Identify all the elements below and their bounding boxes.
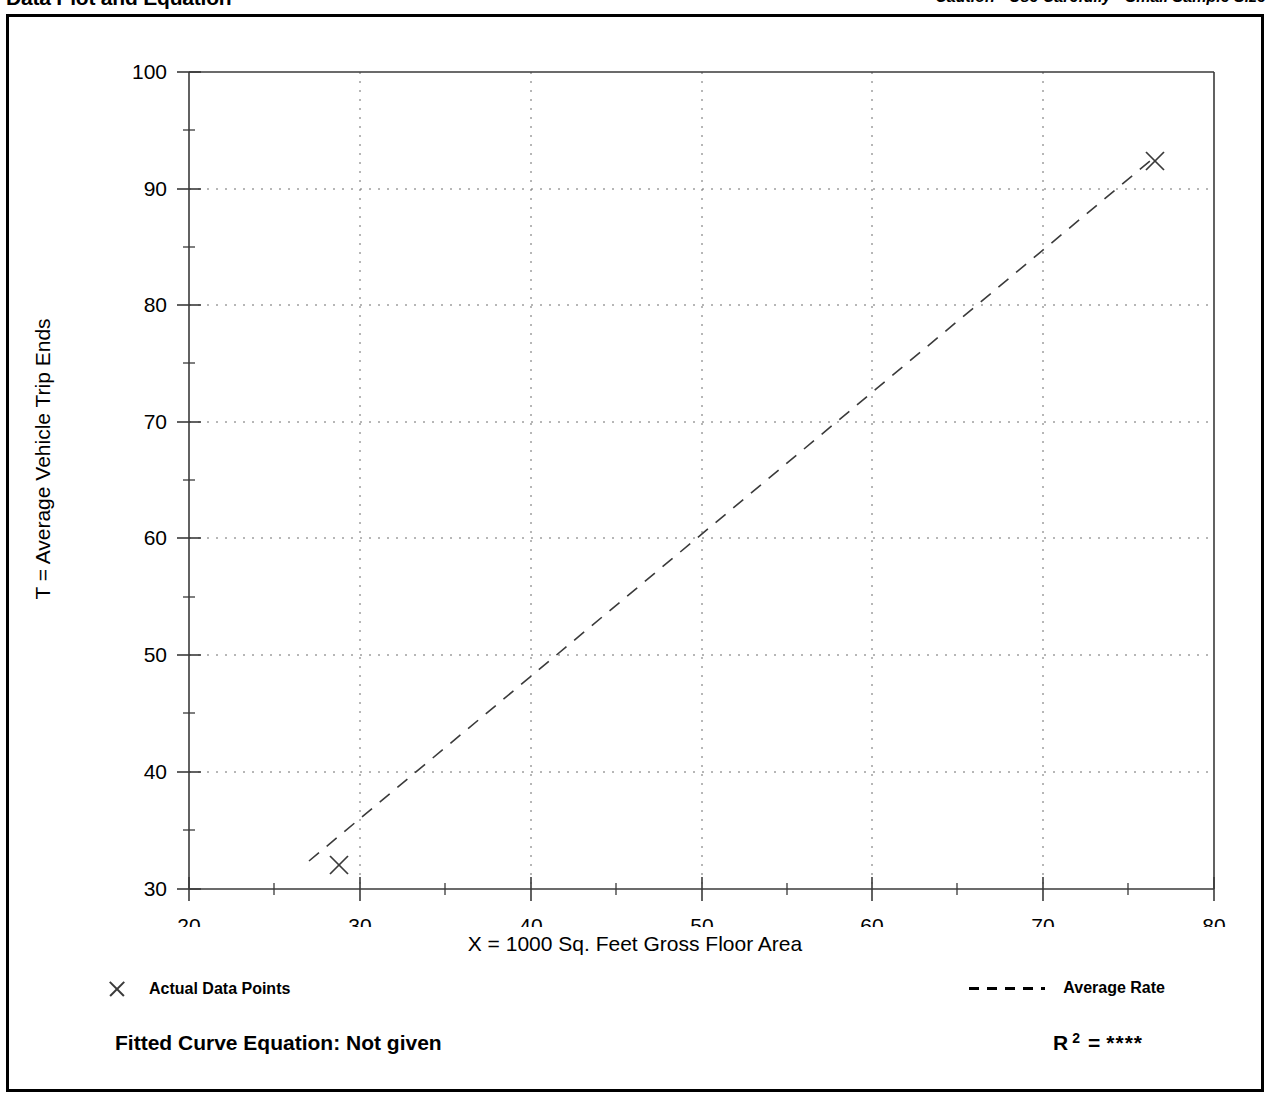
legend-item-data-points: Actual Data Points (107, 979, 290, 999)
y-axis-title: T = Average Vehicle Trip Ends (31, 229, 55, 689)
chart-legend: Actual Data Points Average Rate (9, 979, 1261, 1015)
x-tick-label: 80 (1202, 914, 1225, 927)
x-axis-title: X = 1000 Sq. Feet Gross Floor Area (9, 932, 1261, 956)
y-tick-label: 60 (144, 526, 167, 549)
data-point-marker (330, 856, 348, 874)
y-tick-label: 90 (144, 177, 167, 200)
y-tick-label: 40 (144, 760, 167, 783)
x-tick-label: 50 (690, 914, 713, 927)
fitted-curve-equation: Fitted Curve Equation: Not given (115, 1031, 442, 1055)
x-tick-label: 70 (1031, 914, 1054, 927)
legend-label-data-points: Actual Data Points (149, 980, 290, 998)
x-tick-label: 60 (860, 914, 883, 927)
y-tick-label: 70 (144, 410, 167, 433)
y-tick-label: 80 (144, 293, 167, 316)
r-squared-symbol: R (1053, 1031, 1068, 1055)
plot-grid (189, 72, 1214, 889)
r-squared-block: R2 = **** (1053, 1031, 1143, 1055)
y-tick-labels: 100 90 80 70 60 50 40 30 (132, 60, 167, 900)
legend-label-average-rate: Average Rate (1063, 979, 1165, 997)
x-marker-icon (107, 979, 127, 999)
y-tick-label: 50 (144, 643, 167, 666)
caution-note: Caution - Use Carefully - Small Sample S… (935, 0, 1266, 6)
chart-stage: 100 90 80 70 60 50 40 30 20 30 40 50 60 … (9, 17, 1261, 1089)
r-squared-exponent: 2 (1072, 1030, 1080, 1046)
dashed-line-icon (969, 987, 1045, 990)
data-point-marker (1146, 152, 1164, 170)
r-squared-value: **** (1106, 1031, 1143, 1055)
scatter-plot: 100 90 80 70 60 50 40 30 20 30 40 50 60 … (9, 17, 1261, 927)
x-tick-label: 40 (519, 914, 542, 927)
r-squared-equals: = (1088, 1031, 1100, 1055)
y-tick-label: 30 (144, 877, 167, 900)
chart-panel: 100 90 80 70 60 50 40 30 20 30 40 50 60 … (6, 14, 1264, 1092)
equation-footer: Fitted Curve Equation: Not given R2 = **… (9, 1031, 1261, 1071)
legend-item-average-rate: Average Rate (969, 979, 1165, 997)
page-title: Data Plot and Equation (6, 0, 231, 10)
x-tick-label: 20 (177, 914, 200, 927)
y-tick-label: 100 (132, 60, 167, 83)
average-rate-line (309, 156, 1156, 861)
page-header: Data Plot and Equation Caution - Use Car… (0, 0, 1274, 12)
x-tick-labels: 20 30 40 50 60 70 80 (177, 914, 1225, 927)
x-tick-label: 30 (348, 914, 371, 927)
